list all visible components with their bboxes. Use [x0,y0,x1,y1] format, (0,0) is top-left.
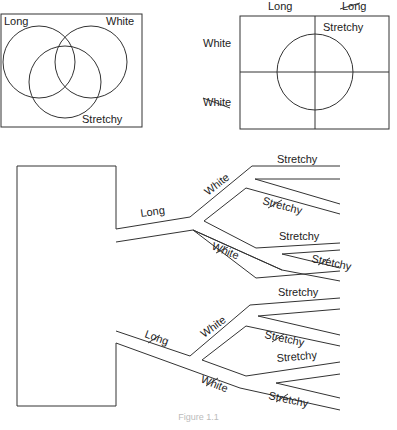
grid-col-label-not-long: Long [342,0,366,12]
tree-label-stretchy: Stretchy [277,153,318,165]
tree-label-stretchy: Stretchy [279,230,320,242]
grid-row-label-white: White [203,37,231,49]
venn-label-stretchy: Stretchy [82,113,123,125]
tree-label-not-stretchy: Stretchy [268,389,310,409]
venn-label-long: Long [4,15,28,27]
grid-circle-label-stretchy: Stretchy [323,21,364,33]
venn-label-white: White [106,15,134,27]
tree-label-long: Long [140,204,166,219]
venn-frame [1,14,142,127]
branch-leaf-edge [202,360,340,376]
tree-label-white: White [198,313,228,339]
tree-label-white: White [202,171,232,198]
venn-diagram: Long White Stretchy [1,14,142,127]
tree-label-not-white: White [210,240,241,262]
branch-long-white-outer [116,166,340,229]
tree-diagram: Long White Stretchy Stretchy White Stret… [17,153,353,410]
venn-circle-stretchy [29,46,101,118]
tree-label-not-white: White [199,373,230,395]
tree-label-stretchy: Stretchy [276,348,318,364]
branch-leaf-edge [256,243,340,248]
tree-trunk [17,166,116,406]
grid-diagram: Long Long White White Stretchy [203,0,389,129]
venn-circle-white [55,26,127,98]
figure-canvas: Long White Stretchy Long Long White Whit… [0,0,397,430]
tree-label-not-stretchy: Stretchy [311,252,353,272]
grid-row-label-not-white: White [203,96,231,108]
tree-label-stretchy: Stretchy [278,286,319,298]
figure-caption: Figure 1.1 [0,412,397,422]
venn-circle-long [3,26,75,98]
grid-col-label-long: Long [268,0,292,12]
tree-label-not-stretchy: Stretchy [264,328,306,348]
